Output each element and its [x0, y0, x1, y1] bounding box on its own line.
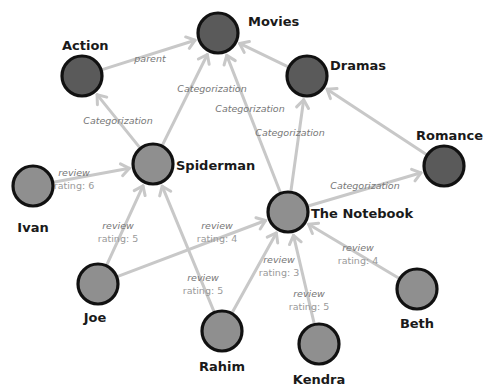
node-label: Kendra	[293, 372, 345, 387]
edge-label: Categorization	[83, 115, 152, 126]
node-action: Action	[62, 38, 109, 96]
edge-label: review	[58, 167, 90, 178]
edge-rating-label: rating: 4	[197, 233, 237, 244]
movie-graph-diagram: parentCategorizationCategorizationCatego…	[0, 0, 484, 392]
node-circle	[202, 311, 242, 351]
edge-label: Categorization	[330, 180, 399, 191]
node-label: Rahim	[199, 359, 245, 374]
node-beth: Beth	[397, 269, 437, 331]
node-joe: Joe	[78, 264, 118, 325]
edge-rating-label: rating: 5	[183, 285, 223, 296]
edge-dramas-to-movies	[240, 42, 288, 67]
node-label: Beth	[400, 316, 434, 331]
edge-line	[163, 54, 208, 144]
edge-label: review	[342, 242, 374, 253]
edge-label: Categorization	[177, 83, 246, 94]
nodes-layer: MoviesActionDramasRomanceSpidermanThe No…	[13, 13, 483, 387]
node-circle	[268, 192, 308, 232]
edge-label: Categorization	[255, 127, 324, 138]
node-label: Joe	[83, 310, 107, 325]
edge-label: review	[102, 220, 134, 231]
node-kendra: Kendra	[293, 324, 345, 387]
node-circle	[424, 146, 464, 186]
node-ivan: Ivan	[13, 166, 53, 235]
node-circle	[287, 56, 327, 96]
node-circle	[62, 56, 102, 96]
node-label: Movies	[248, 14, 300, 29]
edge-line	[240, 43, 288, 66]
edge-label: parent	[133, 53, 167, 64]
node-circle	[299, 324, 339, 364]
node-spiderman: Spiderman	[133, 144, 255, 184]
edge-line	[119, 221, 266, 277]
node-circle	[78, 264, 118, 304]
node-label: Dramas	[330, 58, 386, 73]
edge-rating-label: rating: 5	[289, 301, 329, 312]
node-rahim: Rahim	[199, 311, 245, 374]
node-label: Action	[62, 38, 109, 53]
node-romance: Romance	[416, 128, 483, 186]
node-label: Spiderman	[176, 158, 255, 173]
edge-rating-label: rating: 4	[338, 255, 378, 266]
edge-notebook-to-dramas	[291, 100, 308, 190]
edge-rating-label: rating: 6	[54, 180, 94, 191]
edge-label: review	[293, 288, 325, 299]
edge-joe-to-notebook	[119, 218, 266, 276]
edge-label: Categorization	[215, 103, 284, 114]
edge-romance-to-dramas	[327, 89, 426, 154]
node-circle	[13, 166, 53, 206]
node-label: The Notebook	[311, 206, 413, 221]
node-circle	[133, 144, 173, 184]
edge-line	[327, 89, 426, 154]
node-label: Romance	[416, 128, 483, 143]
edge-label: review	[263, 254, 295, 265]
edge-rating-label: rating: 3	[259, 267, 299, 278]
edge-line	[291, 100, 304, 190]
node-circle	[397, 269, 437, 309]
edge-rating-label: rating: 5	[98, 233, 138, 244]
node-circle	[198, 13, 238, 53]
node-label: Ivan	[17, 220, 48, 235]
edge-label: review	[201, 220, 233, 231]
edge-spiderman-to-movies	[163, 54, 209, 144]
edge-label: review	[187, 272, 219, 283]
